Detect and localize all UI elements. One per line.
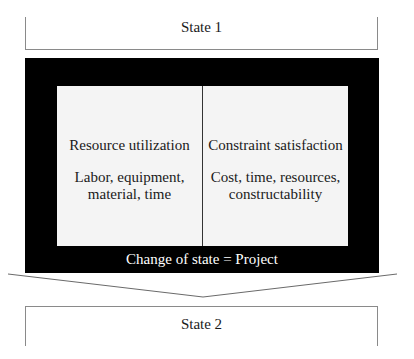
column-detail: Cost, time, resources, constructability bbox=[203, 169, 348, 203]
column-title: Resource utilization bbox=[57, 137, 202, 154]
project-inner-panel: Resource utilization Labor, equipment, m… bbox=[57, 86, 348, 246]
column-detail: Labor, equipment, material, time bbox=[57, 169, 202, 203]
resource-utilization-column: Resource utilization Labor, equipment, m… bbox=[57, 86, 202, 246]
constraint-satisfaction-column: Constraint satisfaction Cost, time, reso… bbox=[203, 86, 348, 246]
detail-line: Labor, equipment, bbox=[57, 169, 202, 186]
project-box: Resource utilization Labor, equipment, m… bbox=[25, 58, 379, 273]
state-2-box: State 2 bbox=[25, 306, 378, 346]
detail-line: constructability bbox=[203, 186, 348, 203]
detail-line: Cost, time, resources, bbox=[203, 169, 348, 186]
state-1-label: State 1 bbox=[26, 19, 377, 36]
column-title: Constraint satisfaction bbox=[203, 137, 348, 154]
project-caption: Change of state = Project bbox=[25, 251, 379, 268]
state-2-label: State 2 bbox=[26, 316, 377, 333]
arrow-down-icon bbox=[0, 268, 414, 300]
detail-line: material, time bbox=[57, 186, 202, 203]
state-1-box: State 1 bbox=[25, 17, 378, 50]
